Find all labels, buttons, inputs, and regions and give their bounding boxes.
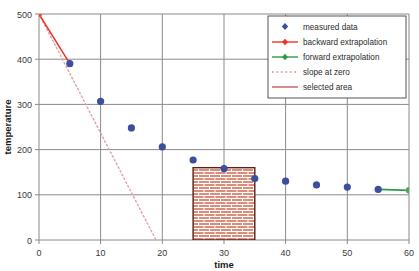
x-tick-label: 10 [96, 248, 106, 258]
data-point [66, 60, 73, 67]
forward-extrapolation-endpoint [406, 187, 412, 193]
x-tick-label: 60 [404, 248, 414, 258]
chart-container: 500 400 300 200 100 0 0 10 20 30 40 50 6… [0, 0, 419, 271]
y-tick-label: 100 [17, 190, 32, 200]
data-point [128, 124, 135, 131]
legend-label: slope at zero [303, 68, 350, 77]
y-tick-label: 300 [17, 100, 32, 110]
legend-entry-backward-extrapolation[interactable]: backward extrapolation [269, 34, 405, 49]
y-axis-tick-labels: 500 400 300 200 100 0 [17, 10, 32, 246]
legend-label: forward extrapolation [303, 53, 380, 62]
legend-label: measured data [303, 23, 358, 32]
data-point [375, 186, 382, 193]
chart-canvas: 500 400 300 200 100 0 0 10 20 30 40 50 6… [0, 0, 419, 271]
x-tick-label: 0 [36, 248, 41, 258]
x-tick-label: 30 [219, 248, 229, 258]
x-axis-title: time [214, 259, 234, 270]
data-point [97, 98, 104, 105]
data-point [220, 165, 227, 172]
legend-label: selected area [303, 83, 353, 92]
legend-entry-selected-area[interactable]: selected area [269, 79, 405, 94]
y-tick-label: 400 [17, 55, 32, 65]
data-point [282, 178, 289, 185]
legend-entry-measured-data[interactable]: measured data [269, 19, 405, 34]
x-axis-tick-labels: 0 10 20 30 40 50 60 [36, 248, 414, 258]
y-tick-label: 0 [27, 236, 32, 246]
selected-area-rect[interactable] [193, 168, 255, 240]
x-tick-label: 40 [281, 248, 291, 258]
data-point [159, 143, 166, 150]
data-point [313, 181, 320, 188]
legend-entry-forward-extrapolation[interactable]: forward extrapolation [269, 49, 405, 64]
y-tick-label: 500 [17, 10, 32, 20]
y-axis-title: temperature [2, 100, 13, 155]
legend-label: backward extrapolation [303, 38, 388, 47]
legend-entry-slope-at-zero[interactable]: slope at zero [269, 64, 405, 79]
data-point [344, 184, 351, 191]
x-tick-label: 20 [157, 248, 167, 258]
data-point [251, 175, 258, 182]
y-tick-label: 200 [17, 145, 32, 155]
data-point [190, 156, 197, 163]
x-tick-label: 50 [342, 248, 352, 258]
chart-legend: measured data backward extrapolation for… [268, 16, 406, 98]
selected-area-region[interactable] [193, 168, 255, 240]
